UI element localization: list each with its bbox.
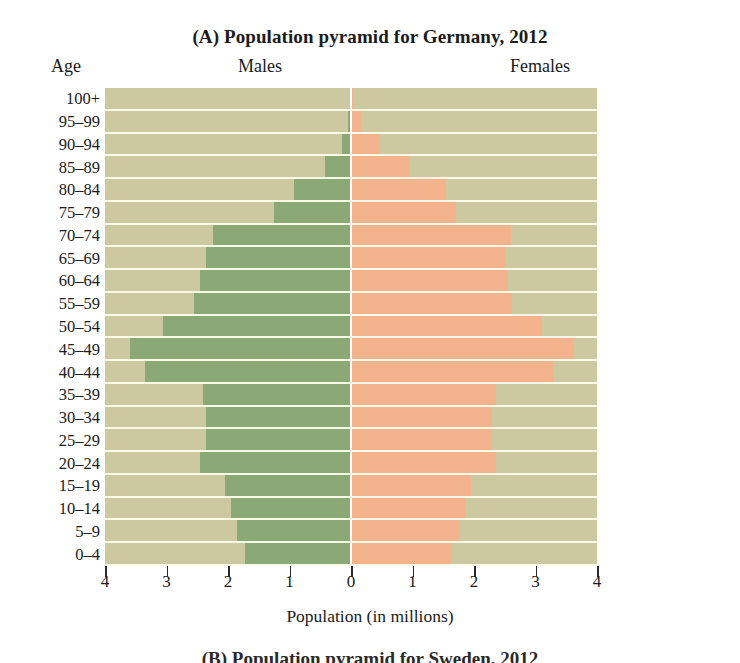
female-bar xyxy=(351,452,496,473)
female-bar xyxy=(351,384,496,405)
female-bar xyxy=(351,407,492,428)
x-axis-tick-label: 3 xyxy=(147,572,187,592)
age-band-label: 60–64 xyxy=(30,273,100,290)
x-axis-tick-label: 2 xyxy=(208,572,248,592)
x-axis-tick-label: 1 xyxy=(270,572,310,592)
age-band-label: 5–9 xyxy=(30,524,100,541)
female-bar xyxy=(351,543,451,564)
x-axis-tick-labels: 432101234 xyxy=(0,572,740,596)
age-band-label: 70–74 xyxy=(30,228,100,245)
male-bar xyxy=(245,543,351,564)
age-band-label: 95–99 xyxy=(30,114,100,131)
figure-title: (A) Population pyramid for Germany, 2012 xyxy=(0,26,740,48)
x-axis-tick-label: 0 xyxy=(331,572,371,592)
male-bar xyxy=(206,407,351,428)
age-axis-labels: 100+95–9990–9485–8980–8475–7970–7465–696… xyxy=(30,88,100,566)
age-band-label: 65–69 xyxy=(30,251,100,268)
female-bar xyxy=(351,498,465,519)
age-band-label: 55–59 xyxy=(30,296,100,313)
plot-area xyxy=(105,88,597,566)
female-bar xyxy=(351,179,446,200)
male-bar xyxy=(203,384,351,405)
age-band-label: 50–54 xyxy=(30,319,100,336)
female-bar xyxy=(351,156,409,177)
male-bar xyxy=(231,498,351,519)
age-band-label: 15–19 xyxy=(30,478,100,495)
female-bar xyxy=(351,361,553,382)
male-bar xyxy=(237,520,351,541)
female-bar xyxy=(351,316,542,337)
age-band-label: 90–94 xyxy=(30,137,100,154)
x-axis-tick-label: 1 xyxy=(393,572,433,592)
male-bar xyxy=(225,475,351,496)
next-figure-caption: (B) Population pyramid for Sweden, 2012 xyxy=(0,648,740,663)
center-axis-line xyxy=(350,88,352,566)
male-bar xyxy=(325,156,351,177)
female-bar xyxy=(351,270,508,291)
x-axis-tick-label: 3 xyxy=(516,572,556,592)
age-band-label: 85–89 xyxy=(30,160,100,177)
male-bar xyxy=(194,293,351,314)
female-bar xyxy=(351,225,511,246)
male-bar xyxy=(163,316,351,337)
age-band-label: 20–24 xyxy=(30,456,100,473)
female-bar xyxy=(351,202,456,223)
male-bar xyxy=(130,338,351,359)
female-bar xyxy=(351,134,379,155)
x-axis-tick-label: 4 xyxy=(577,572,617,592)
age-band-label: 25–29 xyxy=(30,433,100,450)
age-band-label: 45–49 xyxy=(30,342,100,359)
female-bar xyxy=(351,293,512,314)
female-bar xyxy=(351,429,491,450)
male-bar xyxy=(213,225,351,246)
age-band-label: 75–79 xyxy=(30,205,100,222)
age-band-label: 40–44 xyxy=(30,365,100,382)
female-bar xyxy=(351,338,574,359)
age-band-label: 30–34 xyxy=(30,410,100,427)
male-bar xyxy=(200,270,351,291)
female-bar xyxy=(351,475,471,496)
x-axis-title: Population (in millions) xyxy=(0,606,740,627)
age-band-label: 0–4 xyxy=(30,547,100,564)
column-header-males: Males xyxy=(180,56,340,77)
male-bar xyxy=(145,361,351,382)
column-header-age: Age xyxy=(34,56,98,77)
female-bar xyxy=(351,111,361,132)
age-band-label: 100+ xyxy=(30,91,100,108)
age-band-label: 10–14 xyxy=(30,501,100,518)
x-axis-tick-label: 4 xyxy=(85,572,125,592)
male-bar xyxy=(274,202,351,223)
x-axis-tick-label: 2 xyxy=(454,572,494,592)
male-bar xyxy=(206,247,351,268)
male-bar xyxy=(206,429,351,450)
population-pyramid-figure: (A) Population pyramid for Germany, 2012… xyxy=(0,0,740,663)
male-bar xyxy=(294,179,351,200)
male-bar xyxy=(200,452,351,473)
female-bar xyxy=(351,520,459,541)
female-bar xyxy=(351,247,505,268)
age-band-label: 80–84 xyxy=(30,182,100,199)
column-header-females: Females xyxy=(460,56,620,77)
age-band-label: 35–39 xyxy=(30,387,100,404)
